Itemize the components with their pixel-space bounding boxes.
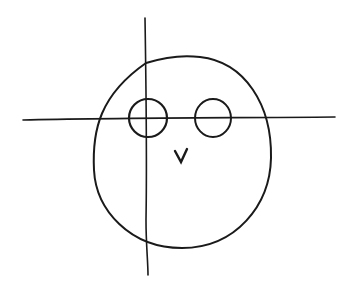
horizontal-guideline: [23, 117, 335, 120]
owl-sketch: [0, 0, 349, 287]
vertical-guideline: [145, 18, 148, 275]
beak-icon: [175, 149, 187, 162]
head-outline: [94, 56, 271, 248]
sketch-canvas: [0, 0, 349, 287]
